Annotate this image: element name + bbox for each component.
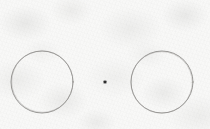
right-circle-overdraw xyxy=(131,52,192,113)
pencil-drawing-layer xyxy=(0,0,210,129)
left-circle-overdraw xyxy=(12,51,73,112)
drawing-canvas: Two hand-drawn circles with a center dot… xyxy=(0,0,210,129)
center-dot-halo xyxy=(103,80,107,84)
drawing-svg xyxy=(0,0,210,129)
